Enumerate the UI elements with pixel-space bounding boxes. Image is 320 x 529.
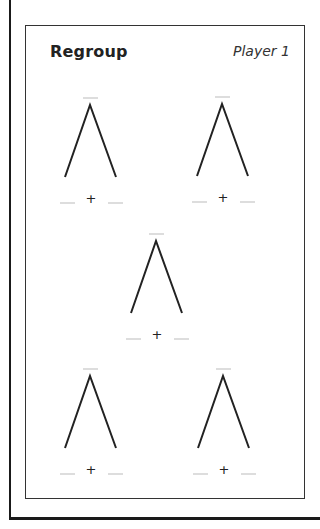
plus-sign: + (152, 327, 163, 342)
tree-branches (65, 105, 116, 177)
number-bond-tree-top-left: + (60, 98, 123, 206)
tree-branches (131, 241, 182, 313)
number-bond-tree-middle: + (126, 234, 189, 342)
tree-branches (65, 376, 116, 448)
plus-sign: + (218, 190, 229, 205)
tree-branches (197, 104, 248, 176)
plus-sign: + (86, 191, 97, 206)
plus-sign: + (86, 462, 97, 477)
number-bond-tree-top-right: + (192, 97, 255, 205)
number-bond-trees: +++++ (0, 0, 320, 529)
number-bond-tree-bottom-left: + (60, 369, 123, 477)
number-bond-tree-bottom-right: + (193, 369, 256, 477)
tree-branches (198, 376, 249, 448)
plus-sign: + (219, 462, 230, 477)
